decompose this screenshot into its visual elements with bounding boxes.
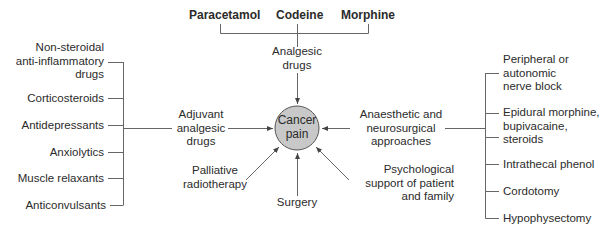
right-item-intrathecal: Intrathecal phenol: [503, 158, 594, 172]
anaesthetic-label: Anaesthetic and neurosurgical approaches: [353, 108, 449, 149]
drug-paracetamol: Paracetamol: [189, 9, 260, 23]
surgery-label: Surgery: [267, 196, 327, 210]
drug-morphine: Morphine: [341, 9, 395, 23]
left-item-anxiolytics: Anxiolytics: [0, 146, 104, 160]
top-bracket: [221, 24, 369, 34]
right-item-epidural: Epidural morphine, bupivacaine, steroids: [503, 106, 600, 147]
left-item-nsaids: Non-steroidal anti-inflammatory drugs: [0, 41, 104, 82]
left-item-muscle-relaxants: Muscle relaxants: [0, 172, 104, 186]
psychological-label: Psychological support of patient and fam…: [338, 163, 454, 204]
adjuvant-label: Adjuvant analgesic drugs: [166, 108, 236, 149]
left-item-anticonvulsants: Anticonvulsants: [0, 199, 106, 213]
right-item-nerve-block: Peripheral or autonomic nerve block: [503, 53, 569, 94]
drug-codeine: Codeine: [276, 9, 323, 23]
cancer-pain-diagram: Cancer pain Paracetamol Codeine Morphine…: [0, 0, 609, 235]
center-label: Cancer pain: [267, 114, 327, 141]
left-item-corticosteroids: Corticosteroids: [0, 92, 104, 106]
analgesic-drugs-label: Analgesic drugs: [262, 45, 332, 72]
left-item-antidepressants: Antidepressants: [0, 119, 104, 133]
radiotherapy-label: Palliative radiotherapy: [175, 164, 255, 191]
right-item-cordotomy: Cordotomy: [503, 185, 559, 199]
right-item-hypophysectomy: Hypophysectomy: [503, 212, 591, 226]
